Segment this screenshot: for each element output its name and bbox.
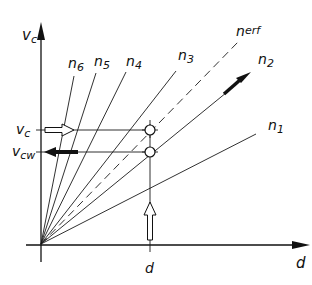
hollow-arrow-up-icon <box>144 202 156 240</box>
ray-n5 <box>41 73 96 244</box>
vc-label: vc <box>16 121 30 140</box>
label-n-erf: nerf <box>236 23 262 39</box>
x-axis-label: d <box>296 254 306 272</box>
intersection-vcw <box>142 147 158 157</box>
solid-arrow-left-icon <box>44 147 78 157</box>
label-n6: n6 <box>68 55 84 74</box>
label-n5: n5 <box>94 53 110 72</box>
cutting-speed-diameter-diagram: vc d vc vcw d n6 n5 n4 n3 nerf n2 n1 <box>0 0 312 285</box>
d-marker-label: d <box>145 260 154 276</box>
labels: vc d vc vcw d n6 n5 n4 n3 nerf n2 n1 <box>12 23 306 276</box>
label-n1: n1 <box>268 117 284 136</box>
hollow-arrow-right-icon <box>45 124 74 136</box>
y-axis-label: vc <box>22 26 37 46</box>
direction-arrow-shaft <box>224 80 240 94</box>
y-axis-arrow-icon <box>37 22 45 40</box>
label-n3: n3 <box>178 47 194 66</box>
label-n2: n2 <box>258 51 274 70</box>
ray-n6 <box>41 76 74 244</box>
ray-n3 <box>41 71 176 244</box>
label-n4: n4 <box>126 53 142 72</box>
ray-n-erf <box>41 42 238 244</box>
ray-n2 <box>41 88 232 244</box>
intersection-vc <box>142 120 158 138</box>
x-axis-arrow-icon <box>292 241 310 249</box>
ray-n4 <box>41 72 126 244</box>
vcw-label: vcw <box>12 143 35 162</box>
